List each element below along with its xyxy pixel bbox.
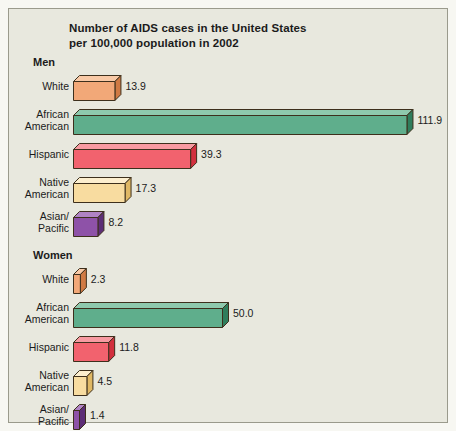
category-label-line2: Pacific <box>0 415 69 427</box>
bar-3d <box>73 370 94 397</box>
bar-value-label: 39.3 <box>201 148 221 160</box>
bar-3d <box>73 109 414 136</box>
bar-top-face <box>74 110 413 116</box>
bar-top-face <box>74 144 197 150</box>
bar-value-label: 17.3 <box>136 182 156 194</box>
bar-front-face <box>74 82 115 101</box>
bar-row: NativeAmerican17.3 <box>9 171 449 205</box>
title-line-2: per 100,000 population in 2002 <box>69 36 399 51</box>
category-label-line2: American <box>0 188 69 200</box>
bar-front-face <box>74 150 191 169</box>
bar-row: White2.3 <box>9 262 449 296</box>
bar-value-label: 50.0 <box>233 307 253 319</box>
bar-top-face <box>74 178 132 184</box>
category-label: Hispanic <box>0 148 69 160</box>
bar-3d <box>73 211 105 238</box>
bar-front-face <box>74 218 98 237</box>
category-label-line2: American <box>0 381 69 393</box>
bar-3d <box>73 336 116 363</box>
title-line-1: Number of AIDS cases in the United State… <box>69 21 399 36</box>
category-label-line2: American <box>0 313 69 325</box>
category-label: AfricanAmerican <box>0 108 69 132</box>
bar-row: NativeAmerican4.5 <box>9 364 449 398</box>
bar-row: White13.9 <box>9 69 449 103</box>
category-label: NativeAmerican <box>0 369 69 393</box>
category-label-line1: Asian/ <box>40 210 69 222</box>
bar-value-label: 13.9 <box>125 80 145 92</box>
bar-front-face <box>74 116 407 135</box>
category-label-line1: Asian/ <box>40 403 69 415</box>
bar-row: AfricanAmerican50.0 <box>9 296 449 330</box>
category-label-line2: Pacific <box>0 222 69 234</box>
bar-value-label: 11.8 <box>119 341 139 353</box>
bar-value-label: 1.4 <box>90 409 105 421</box>
category-label-line1: White <box>42 80 69 92</box>
bar-front-face <box>74 411 80 430</box>
category-label-line1: African <box>36 301 69 313</box>
bar-front-face <box>74 275 81 294</box>
category-label: Hispanic <box>0 341 69 353</box>
bar-row: Asian/Pacific8.2 <box>9 205 449 239</box>
bar-3d <box>73 268 88 295</box>
group-header-men: Men <box>33 56 55 68</box>
bar-value-label: 8.2 <box>108 216 123 228</box>
bar-front-face <box>74 343 109 362</box>
category-label: White <box>0 273 69 285</box>
category-label-line1: Native <box>39 369 69 381</box>
bar-row: Hispanic11.8 <box>9 330 449 364</box>
bar-value-label: 111.9 <box>417 114 442 126</box>
bar-3d <box>73 302 230 329</box>
category-label: NativeAmerican <box>0 176 69 200</box>
bar-row: Asian/Pacific1.4 <box>9 398 449 431</box>
category-label: White <box>0 80 69 92</box>
category-label-line1: White <box>42 273 69 285</box>
bar-top-face <box>74 76 121 82</box>
group-header-women: Women <box>33 249 73 261</box>
category-label: Asian/Pacific <box>0 210 69 234</box>
bar-front-face <box>74 184 126 203</box>
chart-figure: Number of AIDS cases in the United State… <box>8 8 448 423</box>
bar-row: Hispanic39.3 <box>9 137 449 171</box>
category-label-line1: Hispanic <box>29 148 69 160</box>
category-label-line1: African <box>36 108 69 120</box>
page-title: Number of AIDS cases in the United State… <box>69 21 399 51</box>
bar-row: AfricanAmerican111.9 <box>9 103 449 137</box>
bar-value-label: 4.5 <box>97 375 112 387</box>
category-label-line1: Native <box>39 176 69 188</box>
bar-3d <box>73 177 133 204</box>
category-label: Asian/Pacific <box>0 403 69 427</box>
category-label-line2: American <box>0 120 69 132</box>
bar-3d <box>73 404 87 431</box>
bar-3d <box>73 143 198 170</box>
bar-front-face <box>74 377 87 396</box>
category-label-line1: Hispanic <box>29 341 69 353</box>
bar-front-face <box>74 309 223 328</box>
bar-top-face <box>74 337 115 343</box>
bar-3d <box>73 75 122 102</box>
bar-value-label: 2.3 <box>91 273 106 285</box>
bar-top-face <box>74 303 229 309</box>
category-label: AfricanAmerican <box>0 301 69 325</box>
